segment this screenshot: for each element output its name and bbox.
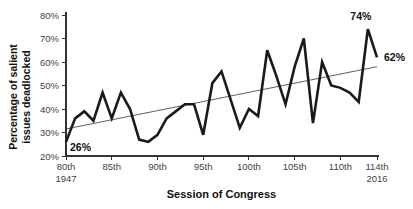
data-line	[66, 29, 377, 142]
x-tick-label: 90th	[148, 161, 167, 172]
x-tick-label: 85th	[102, 161, 121, 172]
y-axis-title-line2: issues deadlocked	[20, 22, 33, 172]
y-axis-title: Percentage of salient issues deadlocked	[7, 22, 33, 172]
y-axis-title-line1: Percentage of salient	[7, 22, 20, 172]
x-axis-title: Session of Congress	[66, 188, 377, 200]
x-tick-label: 95th	[194, 161, 213, 172]
x-tick-sublabel: 1947	[55, 173, 76, 184]
y-tick-label: 80%	[40, 10, 60, 21]
x-tick-label: 105th	[283, 161, 307, 172]
y-tick-label: 70%	[40, 33, 60, 44]
y-tick-label: 40%	[40, 104, 60, 115]
x-tick-sublabel: 2016	[366, 173, 387, 184]
chart-svg: 20%30%40%50%60%70%80%80th194785th90th95t…	[0, 0, 413, 209]
y-tick-label: 20%	[40, 151, 60, 162]
x-tick-label: 114th	[365, 161, 388, 172]
annotation-74pct: 74%	[350, 10, 372, 22]
y-tick-label: 30%	[40, 127, 60, 138]
deadlock-chart: 20%30%40%50%60%70%80%80th194785th90th95t…	[0, 0, 413, 209]
y-tick-label: 60%	[40, 57, 60, 68]
y-tick-label: 50%	[40, 80, 60, 91]
x-tick-label: 80th	[57, 161, 76, 172]
annotation-26pct: 26%	[70, 141, 92, 153]
x-tick-label: 110th	[329, 161, 352, 172]
annotation-62pct: 62%	[384, 51, 406, 63]
x-tick-label: 100th	[237, 161, 261, 172]
